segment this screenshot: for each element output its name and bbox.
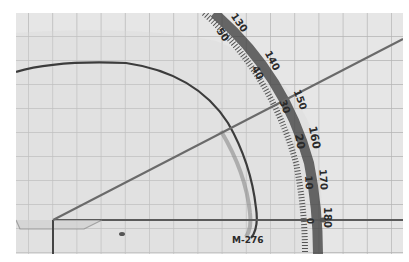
model-label: M-276 — [232, 235, 263, 245]
scale-label-inner-10: 10 — [303, 175, 315, 190]
scale-label-inner-0: 0 — [305, 218, 315, 224]
scale-label-outer-180: 180 — [322, 207, 333, 228]
protractor-photo: 130 50 140 40 150 30 160 20 170 10 180 0… — [16, 13, 403, 254]
scale-label-outer-170: 170 — [317, 169, 329, 191]
protractor-scene — [16, 13, 403, 254]
